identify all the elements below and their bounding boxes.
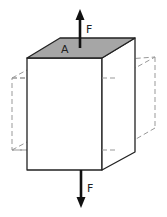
arrow-up-icon [76,9,85,20]
area-label: A [61,43,69,56]
dashed-top-left-diag [12,70,27,78]
force-arrow-down [77,170,86,208]
front-face [27,58,102,170]
dashed-bottom-left-diag [12,142,27,150]
solid-box [27,38,135,170]
arrow-down-icon [77,197,86,208]
force-label-top: F [86,23,92,36]
stress-diagram: F A F [0,0,167,217]
force-label-bottom: F [87,182,93,195]
